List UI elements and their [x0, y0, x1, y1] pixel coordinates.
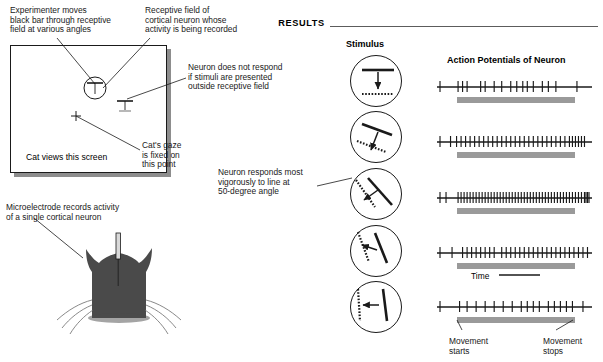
movement-bar-5: [457, 317, 575, 323]
spike-train-row: [437, 81, 592, 92]
movement-bar-1: [457, 97, 575, 103]
spike-train-row: [437, 192, 592, 203]
annotation-best-angle: Neuron responds most vigorously to line …: [218, 168, 303, 197]
screen-caption: Cat views this screen: [26, 152, 107, 162]
movement-starts-label: Movement starts: [449, 337, 488, 356]
movement-bar-3: [457, 208, 575, 214]
stimulus-circle-1: [350, 55, 402, 107]
results-header: RESULTS: [278, 18, 324, 28]
stimulus-circle-5: [350, 281, 402, 333]
header-rule: [330, 26, 598, 27]
stimulus-column-header: Stimulus: [346, 39, 384, 49]
spike-train-row: [437, 247, 592, 258]
movement-stops-label: Movement stops: [543, 337, 582, 356]
time-axis-label: Time: [471, 271, 489, 281]
annotation-no-response: Neuron does not respond if stimuli are p…: [188, 63, 283, 92]
cat-head: [57, 233, 181, 334]
stimulus-circle-2: [350, 111, 402, 163]
spike-train-row: [437, 301, 592, 312]
spike-train-group: [437, 81, 592, 312]
annotation-gaze: Cat's gaze is fixed on this point: [142, 141, 181, 170]
figure-root: Cat views this screen Experimenter moves…: [0, 0, 603, 362]
spike-train-row: [437, 136, 592, 147]
movement-bar-4: [457, 263, 575, 269]
annotation-microelectrode: Microelectrode records activity of a sin…: [6, 203, 119, 222]
movement-bar-2: [457, 152, 575, 158]
response-column-header: Action Potentials of Neuron: [447, 55, 566, 65]
stimulus-circle-3: [350, 168, 402, 220]
stimulus-circle-4: [350, 225, 402, 277]
